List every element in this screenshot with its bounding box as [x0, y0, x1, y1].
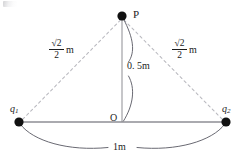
origin-o-label: O	[110, 113, 117, 123]
point-p-node	[117, 11, 126, 20]
height-measurement-label: 0. 5m	[127, 61, 150, 71]
left-side-fraction: √2 2	[49, 39, 64, 60]
baseline-measurement-label: 1m	[113, 142, 126, 152]
left-side-numerator: √2	[51, 39, 63, 49]
physics-diagram: P O q1 q2 0. 5m 1m √2 2 m √2 2 m	[0, 0, 244, 166]
charge-q1-node	[14, 117, 23, 126]
charge-q2-label: q2	[222, 104, 231, 115]
right-side-numerator: √2	[174, 39, 186, 49]
charge-q1-subscript: 1	[15, 107, 19, 115]
right-side-fraction: √2 2	[172, 39, 187, 60]
right-side-unit: m	[189, 44, 197, 55]
baseline-measure-arc-right	[137, 125, 225, 149]
charge-q2-node	[221, 117, 230, 126]
right-side-denominator: 2	[176, 50, 183, 60]
point-p-label: P	[133, 9, 139, 20]
charge-q2-subscript: 2	[227, 107, 231, 115]
left-side-denominator: 2	[53, 50, 60, 60]
height-measure-arc-lower	[124, 76, 133, 121]
left-side-unit: m	[66, 44, 74, 55]
height-measure-arc	[124, 19, 133, 62]
right-side-measurement-label: √2 2 m	[172, 39, 197, 60]
dashed-line-p-to-q1	[23, 20, 121, 120]
left-side-measurement-label: √2 2 m	[49, 39, 74, 60]
charge-q1-label: q1	[10, 104, 19, 115]
baseline-measure-arc-left	[21, 125, 109, 149]
